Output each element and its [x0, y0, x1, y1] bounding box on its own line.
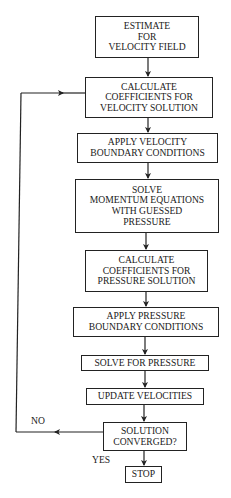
- step-estimate-velocity-field: ESTIMATE FOR VELOCITY FIELD: [95, 16, 199, 58]
- step-solve-momentum: SOLVE MOMENTUM EQUATIONS WITH GUESSED PR…: [75, 179, 219, 233]
- loop-no-vertical: [16, 93, 21, 432]
- step-text: PRESSURE: [123, 217, 170, 228]
- step-calc-velocity-coefficients: CALCULATE COEFFICIENTS FOR VELOCITY SOLU…: [85, 77, 213, 118]
- step-update-velocities: UPDATE VELOCITIES: [86, 388, 204, 405]
- step-apply-velocity-bc: APPLY VELOCITY BOUNDARY CONDITIONS: [77, 133, 218, 163]
- step-text: UPDATE VELOCITIES: [98, 391, 192, 402]
- flowchart: ESTIMATE FOR VELOCITY FIELD CALCULATE CO…: [0, 0, 231, 498]
- step-text: BOUNDARY CONDITIONS: [89, 322, 204, 333]
- step-solve-for-pressure: SOLVE FOR PRESSURE: [81, 355, 209, 371]
- decision-solution-converged: SOLUTION CONVERGED?: [103, 422, 187, 451]
- step-text: STOP: [132, 469, 155, 480]
- step-text: CONVERGED?: [113, 437, 176, 448]
- step-text: BOUNDARY CONDITIONS: [90, 148, 205, 159]
- step-text: VELOCITY FIELD: [108, 42, 185, 53]
- branch-label-yes: YES: [92, 455, 110, 465]
- step-text: SOLUTION: [121, 426, 169, 437]
- step-calc-pressure-coefficients: CALCULATE COEFFICIENTS FOR PRESSURE SOLU…: [85, 250, 208, 292]
- step-stop: STOP: [125, 466, 162, 483]
- step-apply-pressure-bc: APPLY PRESSURE BOUNDARY CONDITIONS: [73, 307, 219, 337]
- step-text: VELOCITY SOLUTION: [100, 103, 198, 114]
- step-text: SOLVE FOR PRESSURE: [95, 358, 196, 369]
- branch-label-no: NO: [31, 416, 45, 426]
- step-text: PRESSURE SOLUTION: [98, 276, 196, 287]
- step-text: WITH GUESSED: [112, 206, 183, 217]
